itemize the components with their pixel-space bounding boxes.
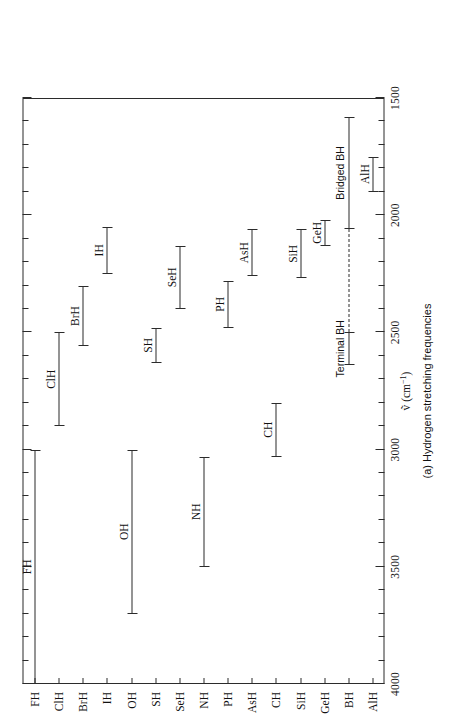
x-axis-title-text: ṽ (cm [400,384,412,411]
x-tick-label-2500: 2500 [388,321,400,345]
x-tick-3400 [378,542,384,543]
category-tick-SH [155,678,156,684]
x-tick-2300 [378,285,384,286]
x-tick-top-3800 [22,636,28,637]
range-cap-right [296,229,306,230]
annotation-terminal-bh: Terminal BH [333,320,348,377]
category-label-FH: FH [28,692,40,707]
category-label-BrH: BrH [76,692,88,712]
x-tick-top-2600 [22,355,28,356]
x-tick-3100 [378,472,384,473]
range-bar-BH-14 [348,229,349,332]
series-label-AsH: AsH [237,242,251,263]
range-cap-right [127,450,137,451]
range-cap-left [151,362,161,363]
series-label-PH: PH [213,297,227,312]
x-tick-top-3200 [22,495,28,496]
x-tick-3600 [378,589,384,590]
x-tick-label-3000: 3000 [388,438,400,462]
category-tick-SiH [300,678,301,684]
category-label-GeH: GeH [318,692,330,714]
x-tick-top-3600 [22,589,28,590]
series-label-IH: IH [92,244,106,256]
series-label-OH: OH [117,523,131,540]
x-tick-3800 [378,636,384,637]
range-cap-left [296,278,306,279]
range-cap-left [223,327,233,328]
category-tick-BH [348,678,349,684]
plot-frame [22,98,384,684]
plot-area: 400035003000250020001500 FHClHBrHIHOHSHS… [22,98,384,684]
series-label-BrH: BrH [68,306,82,326]
x-axis-title-tail: ) [400,372,412,376]
category-tick-CH [275,678,276,684]
range-cap-right [271,403,281,404]
category-tick-PH [227,678,228,684]
x-tick-label-4000: 4000 [388,672,400,696]
x-tick-3300 [378,519,384,520]
category-tick-SeH [179,678,180,684]
x-tick-top-2500 [22,331,31,332]
x-axis-title: ṽ (cm−1) [398,372,412,411]
range-cap-left [54,425,64,426]
category-tick-NH [203,678,204,684]
x-tick-top-1700 [22,144,28,145]
x-tick-top-3300 [22,519,28,520]
x-tick-top-2100 [22,238,28,239]
x-tick-2000 [375,214,384,215]
range-cap-right [368,157,378,158]
x-tick-top-2200 [22,261,28,262]
series-label-NH: NH [189,503,203,520]
x-tick-label-3500: 3500 [388,555,400,579]
range-cap-right [78,286,88,287]
range-cap-right [344,117,354,118]
x-tick-3700 [378,613,384,614]
category-tick-AsH [251,678,252,684]
x-tick-2700 [378,378,384,379]
category-label-SeH: SeH [173,692,185,712]
range-cap-left [199,566,209,567]
category-label-AsH: AsH [245,692,257,713]
x-tick-2500 [375,331,384,332]
x-tick-4000 [375,683,384,684]
x-tick-2200 [378,261,384,262]
series-label-SH: SH [141,338,155,353]
category-label-AlH: AlH [366,692,378,712]
range-cap-right [54,332,64,333]
category-label-CH: CH [269,692,281,708]
annotation-bridged-bh: Bridged BH [333,146,348,200]
category-label-OH: OH [125,692,137,709]
range-cap-left [368,191,378,192]
category-tick-AlH [372,678,373,684]
x-tick-3900 [378,660,384,661]
range-cap-right [247,229,257,230]
x-tick-top-3900 [22,660,28,661]
x-axis-title-exponent: −1 [398,375,407,384]
x-tick-1800 [378,167,384,168]
x-tick-top-2300 [22,285,28,286]
x-tick-top-3100 [22,472,28,473]
category-label-ClH: ClH [52,692,64,711]
x-tick-1500 [375,97,384,98]
range-cap-right [223,281,233,282]
range-cap-right [175,246,185,247]
x-tick-top-2800 [22,402,28,403]
x-tick-3200 [378,495,384,496]
category-label-IH: IH [100,692,112,704]
range-cap-left [271,456,281,457]
category-tick-ClH [58,678,59,684]
x-tick-top-2000 [22,214,31,215]
x-tick-label-2000: 2000 [388,203,400,227]
x-tick-2800 [378,402,384,403]
range-cap-right [199,457,209,458]
x-tick-1900 [378,191,384,192]
category-tick-OH [131,678,132,684]
series-label-FH: FH [20,559,34,574]
category-tick-IH [106,678,107,684]
range-cap-left [78,345,88,346]
range-cap-right [102,227,112,228]
range-cap-right [151,328,161,329]
range-cap-right [320,220,330,221]
range-cap-left [30,683,40,684]
x-tick-3000 [375,449,384,450]
